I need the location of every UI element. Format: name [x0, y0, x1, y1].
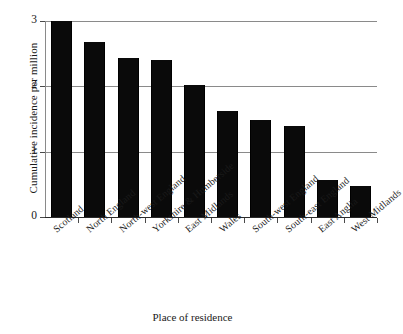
gridline — [45, 21, 377, 22]
x-tick-mark — [178, 218, 179, 223]
y-tick-label: 2 — [13, 79, 37, 91]
bar — [250, 120, 271, 217]
bar — [84, 42, 105, 217]
x-tick-mark — [244, 218, 245, 223]
x-tick-mark — [111, 218, 112, 223]
y-tick-label: 1 — [13, 145, 37, 157]
y-tick-label: 3 — [13, 14, 37, 26]
x-tick-mark — [277, 218, 278, 223]
y-tick-label: 0 — [13, 210, 37, 222]
bar — [51, 21, 72, 217]
x-axis-title: Place of residence — [0, 311, 385, 323]
x-tick-mark — [311, 218, 312, 223]
x-tick-mark — [377, 218, 378, 223]
x-tick-mark — [78, 218, 79, 223]
x-tick-mark — [344, 218, 345, 223]
x-tick-mark — [145, 218, 146, 223]
x-tick-mark — [211, 218, 212, 223]
y-axis-title: Cumulative incidence per million — [27, 18, 39, 218]
